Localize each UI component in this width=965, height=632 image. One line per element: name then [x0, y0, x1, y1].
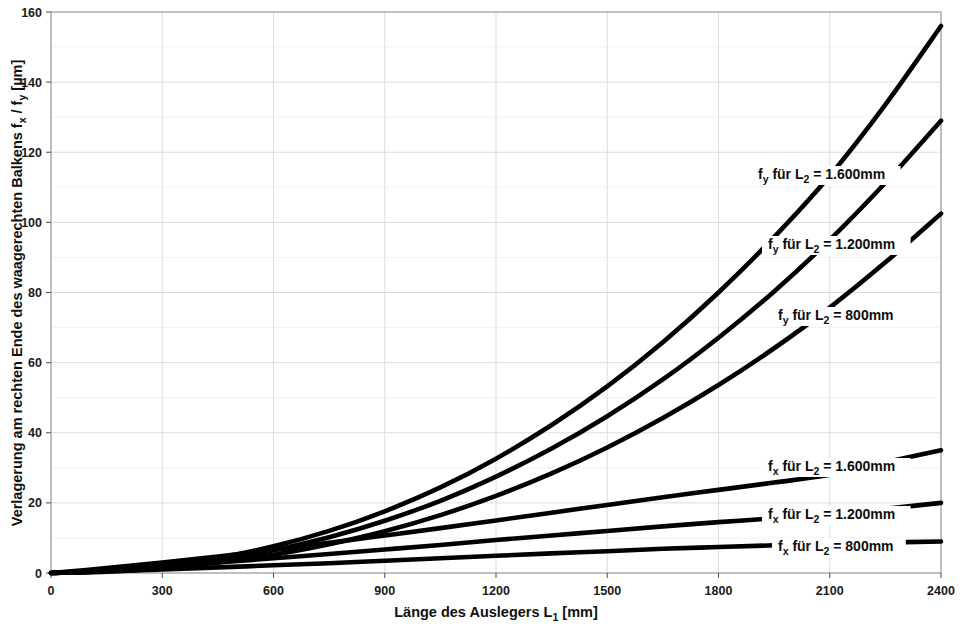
chart-container: 020406080100120140160 030060090012001500…	[0, 0, 965, 632]
y-tick-label: 60	[28, 356, 42, 370]
annotation-fx_L2_800: fx für L2 = 800mm	[772, 538, 906, 557]
x-tick-label: 2100	[816, 584, 844, 598]
y-tick-label: 0	[35, 567, 42, 581]
annotation-fx_L2_1600: fx für L2 = 1.600mm	[762, 458, 911, 477]
y-tick-label: 20	[28, 496, 42, 510]
x-tick-label: 1200	[482, 584, 510, 598]
annotation-fy_L2_1200: fy für L2 = 1.200mm	[762, 236, 911, 255]
line-chart: 020406080100120140160 030060090012001500…	[0, 0, 965, 632]
x-tick-label: 300	[152, 584, 173, 598]
annotation-fx_L2_1200: fx für L2 = 1.200mm	[762, 506, 911, 525]
x-tick-label: 600	[263, 584, 284, 598]
annotation-fy_L2_1600: fy für L2 = 1.600mm	[752, 166, 901, 185]
x-tick-label: 900	[374, 584, 395, 598]
x-tick-label: 1800	[705, 584, 733, 598]
x-tick-label: 0	[48, 584, 55, 598]
y-tick-label: 80	[28, 286, 42, 300]
x-tick-label: 2400	[927, 584, 955, 598]
x-tick-label: 1500	[593, 584, 621, 598]
y-tick-label: 40	[28, 426, 42, 440]
y-tick-label: 160	[21, 6, 42, 20]
annotation-fy_L2_800: fy für L2 = 800mm	[772, 307, 906, 326]
